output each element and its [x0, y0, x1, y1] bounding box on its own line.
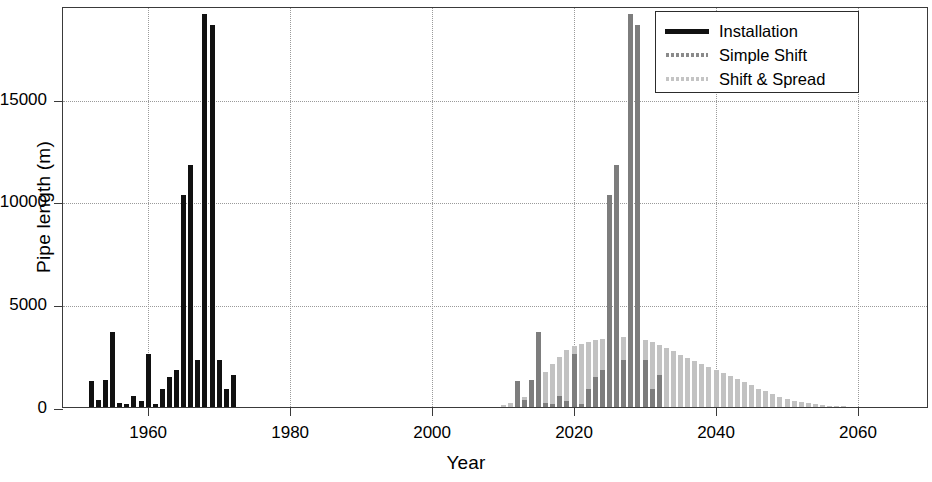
y-axis-tick: [54, 306, 63, 307]
gridline-horizontal: [63, 101, 927, 102]
bar-spread: [501, 405, 506, 407]
x-axis-tick: [716, 407, 717, 416]
legend-label-shift-spread: Shift & Spread: [719, 71, 825, 88]
bar-shift: [572, 354, 577, 407]
bar-install: [188, 165, 193, 407]
bar-spread: [756, 389, 761, 408]
bar-shift: [635, 25, 640, 407]
bar-spread: [792, 401, 797, 407]
bar-shift: [657, 375, 662, 407]
bar-install: [224, 389, 229, 408]
bar-install: [110, 332, 115, 407]
bar-shift: [628, 14, 633, 407]
bar-shift: [621, 360, 626, 407]
bar-shift: [543, 403, 548, 407]
bar-install: [117, 403, 122, 407]
bar-install: [124, 404, 129, 407]
bar-shift: [536, 332, 541, 407]
bar-spread: [564, 350, 569, 407]
x-axis-tick-label: 1980: [250, 423, 330, 443]
bar-spread: [714, 370, 719, 407]
legend-label-simple-shift: Simple Shift: [719, 47, 807, 64]
bar-spread: [664, 348, 669, 407]
gridline-vertical: [290, 8, 291, 407]
x-axis-tick-label: 2040: [676, 423, 756, 443]
bar-shift: [614, 165, 619, 407]
y-axis-tick: [54, 409, 63, 410]
bar-install: [195, 360, 200, 407]
bar-spread: [735, 379, 740, 407]
x-axis-tick-label: 2020: [534, 423, 614, 443]
gridline-vertical: [148, 8, 149, 407]
bar-install: [167, 377, 172, 407]
bar-spread: [777, 397, 782, 407]
x-axis-tick: [290, 407, 291, 416]
bar-install: [139, 401, 144, 407]
bar-install: [103, 380, 108, 407]
bar-install: [210, 25, 215, 407]
bar-shift: [529, 380, 534, 407]
chart-figure: Pipe length (m) Year 0500010000150001960…: [0, 0, 932, 482]
bar-install: [181, 195, 186, 407]
bar-spread: [543, 372, 548, 407]
bar-shift: [579, 404, 584, 407]
bar-spread: [742, 382, 747, 407]
bar-spread: [785, 399, 790, 407]
x-axis-tick: [858, 407, 859, 416]
bar-spread: [749, 385, 754, 407]
bar-spread: [728, 376, 733, 407]
y-axis-tick-label: 5000: [0, 295, 47, 315]
chart-legend: Installation Simple Shift Shift & Spread: [655, 11, 859, 93]
bar-spread: [813, 404, 818, 407]
bar-install: [131, 396, 136, 407]
bar-install: [96, 400, 101, 407]
y-axis-tick-label: 10000: [0, 192, 47, 212]
x-axis-tick: [148, 407, 149, 416]
bar-spread: [834, 406, 839, 407]
legend-label-installation: Installation: [719, 23, 798, 40]
bar-spread: [579, 344, 584, 407]
bar-install: [89, 381, 94, 407]
bar-shift: [564, 401, 569, 407]
bar-spread: [806, 403, 811, 407]
bar-install: [202, 14, 207, 407]
bar-shift: [643, 360, 648, 407]
bar-install: [217, 360, 222, 407]
legend-line-dashed-light-icon: [664, 77, 710, 81]
bar-shift: [557, 396, 562, 407]
bar-spread: [508, 403, 513, 407]
bar-shift: [593, 377, 598, 407]
y-axis-tick: [54, 101, 63, 102]
bar-install: [153, 404, 158, 407]
bar-shift: [515, 381, 520, 407]
legend-line-dashed-icon: [664, 53, 710, 57]
x-axis-tick-label: 1960: [108, 423, 188, 443]
bar-shift: [550, 404, 555, 407]
bar-spread: [770, 394, 775, 407]
bar-spread: [699, 364, 704, 407]
bar-shift: [522, 400, 527, 407]
bar-spread: [671, 351, 676, 407]
bar-spread: [820, 405, 825, 407]
bar-shift: [607, 195, 612, 407]
x-axis-tick: [432, 407, 433, 416]
bar-spread: [550, 364, 555, 407]
bar-spread: [685, 358, 690, 407]
bar-shift: [650, 389, 655, 408]
gridline-vertical: [432, 8, 433, 407]
x-axis-title: Year: [0, 452, 932, 474]
legend-item-simple-shift: Simple Shift: [664, 43, 850, 67]
legend-item-shift-spread: Shift & Spread: [664, 67, 850, 91]
bar-shift: [600, 370, 605, 407]
legend-line-solid-icon: [664, 29, 710, 34]
bar-spread: [692, 361, 697, 407]
x-axis-tick-label: 2000: [392, 423, 472, 443]
y-axis-tick-label: 15000: [0, 90, 47, 110]
bar-shift: [586, 389, 591, 408]
y-axis-tick: [54, 203, 63, 204]
bar-spread: [848, 407, 853, 408]
bar-install: [146, 354, 151, 407]
x-axis-tick: [574, 407, 575, 416]
x-axis-tick-label: 2060: [818, 423, 898, 443]
bar-spread: [763, 391, 768, 407]
